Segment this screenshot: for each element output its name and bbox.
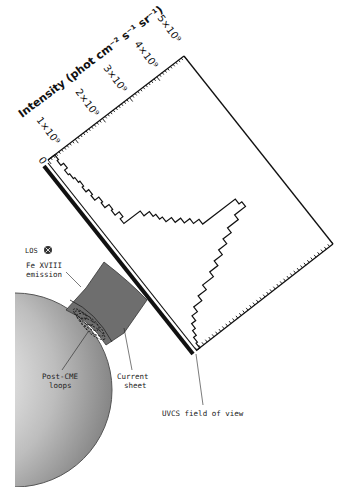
bottom-edge-ticks (195, 242, 333, 350)
tick-label-4: 4×10⁹ (132, 39, 160, 71)
circled-x-icon (44, 246, 52, 254)
uvcs-leader-line (196, 354, 203, 405)
post-cme-label-line2: loops (49, 381, 72, 390)
current-sheet-label-line2: sheet (124, 381, 147, 390)
tick-label-2: 2×10⁹ (73, 87, 101, 119)
tick-label-3: 3×10⁹ (101, 63, 129, 95)
current-sheet-label-line1: Current (117, 372, 149, 381)
uvcs-label: UVCS field of view (162, 409, 244, 418)
tick-label-0: 0 (36, 155, 49, 167)
fe-xviii-leader-line (66, 272, 81, 287)
los-label: LOS (25, 247, 38, 255)
fe-xviii-label-line1: Fe XVIII (26, 261, 62, 270)
tick-label-1: 1×10⁹ (34, 115, 62, 147)
diagram-canvas: 0 1×10⁹ 2×10⁹ 3×10⁹ 4×10⁹ 5×10⁹ Intensit… (0, 0, 351, 487)
current-sheet-leader-line (124, 328, 132, 370)
fe-xviii-label-line2: emission (26, 270, 62, 279)
post-cme-label-line1: Post-CME (42, 372, 79, 381)
